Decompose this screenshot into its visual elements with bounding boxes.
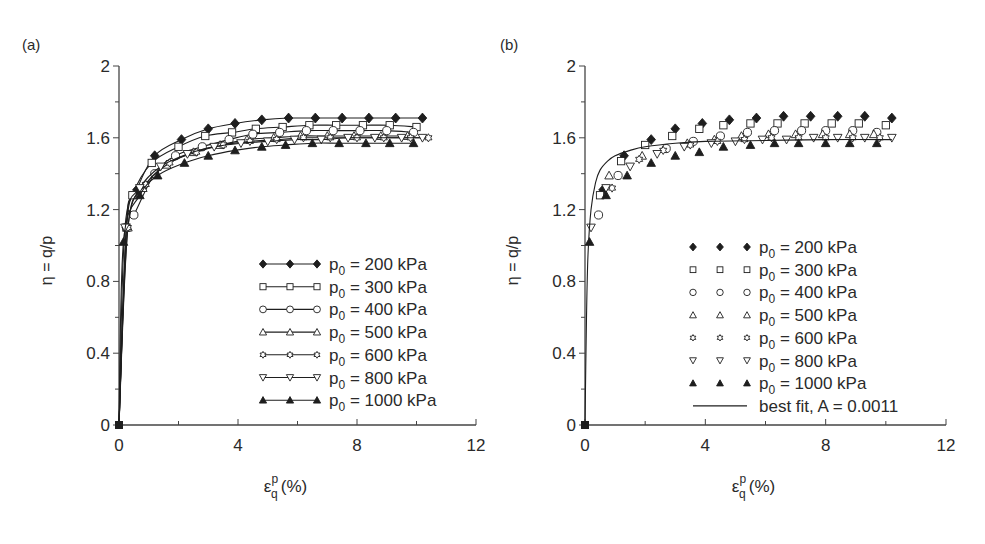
legend-label: p0 = 1000 kPa [759,374,867,397]
legend-label: p0 = 400 kPa [759,283,857,306]
legend-label: p0 = 400 kPa [329,300,427,323]
panel-label: (a) [22,36,40,53]
legend-item: p0 = 800 kPa [259,369,427,392]
legend-label: p0 = 800 kPa [329,369,427,392]
x-tick-label: 8 [352,436,361,455]
y-axis-title: η = q/p [504,236,521,285]
panel-label: (b) [500,36,518,53]
legend-label: p0 = 600 kPa [329,346,427,369]
x-tick-label: 4 [233,436,242,455]
legend-item: p0 = 1000 kPa [690,374,867,397]
legend-label: p0 = 500 kPa [759,306,857,329]
x-tick-label: 0 [580,436,589,455]
y-tick-label: 2 [101,57,110,76]
legend-label: p0 = 1000 kPa [329,391,437,414]
legend: p0 = 200 kPap0 = 300 kPap0 = 400 kPap0 =… [690,238,899,416]
x-tick-label: 4 [701,436,710,455]
x-tick-label: 8 [821,436,830,455]
y-tick-label: 0.4 [86,344,110,363]
y-tick-label: 1.6 [552,129,576,148]
y-tick-label: 0.8 [552,272,576,291]
legend-label: p0 = 200 kPa [759,238,857,261]
legend-item: p0 = 600 kPa [690,329,857,352]
legend-item: p0 = 1000 kPa [259,391,437,414]
legend-item: p0 = 500 kPa [690,306,858,329]
x-tick-label: 0 [114,436,123,455]
legend-item: p0 = 400 kPa [690,283,858,306]
legend-label: best fit, A = 0.0011 [759,397,898,416]
figure: (a)0481200.40.81.21.62εpq(%)η = q/pp0 = … [0,0,985,544]
y-tick-label: 1.2 [552,201,576,220]
legend-label: p0 = 500 kPa [329,323,427,346]
chart-panel-b: (b)0481200.40.81.21.62εpq(%)η = q/pp0 = … [500,36,955,501]
legend-item: p0 = 800 kPa [690,352,858,375]
legend-item: p0 = 200 kPa [259,255,427,278]
legend-item: p0 = 300 kPa [260,278,428,301]
y-tick-label: 0 [567,416,576,435]
legend-item-best-fit: best fit, A = 0.0011 [693,397,898,416]
legend-label: p0 = 800 kPa [759,352,857,375]
chart-panel-a: (a)0481200.40.81.21.62εpq(%)η = q/pp0 = … [22,36,485,501]
x-tick-label: 12 [467,436,486,455]
y-tick-label: 2 [567,57,576,76]
legend-item: p0 = 600 kPa [260,346,427,369]
legend-item: p0 = 300 kPa [690,261,857,284]
legend-item: p0 = 400 kPa [260,300,428,323]
legend-item: p0 = 500 kPa [259,323,427,346]
x-axis-title: εpq(%) [264,472,307,501]
y-axis-title: η = q/p [38,236,55,285]
legend-label: p0 = 300 kPa [759,261,857,284]
legend-label: p0 = 200 kPa [329,255,427,278]
legend-label: p0 = 600 kPa [759,329,857,352]
figure-canvas: (a)0481200.40.81.21.62εpq(%)η = q/pp0 = … [0,0,985,544]
y-tick-label: 1.2 [86,201,110,220]
y-tick-label: 0 [101,416,110,435]
y-tick-label: 0.8 [86,272,110,291]
y-tick-label: 0.4 [552,344,576,363]
legend: p0 = 200 kPap0 = 300 kPap0 = 400 kPap0 =… [259,255,437,414]
x-axis-title: εpq(%) [732,472,775,501]
legend-label: p0 = 300 kPa [329,278,427,301]
x-tick-label: 12 [937,436,956,455]
y-tick-label: 1.6 [86,129,110,148]
legend-item: p0 = 200 kPa [690,238,858,261]
